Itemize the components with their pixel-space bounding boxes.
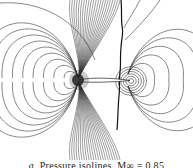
caption-label: a.: [29, 160, 37, 168]
caption-param: M∞ = 0.85: [117, 160, 164, 168]
pressure-isoline-figure: [0, 0, 193, 168]
figure-caption: a. Pressure isolines, M∞ = 0.85: [0, 160, 193, 168]
contour-plot: [0, 0, 193, 168]
caption-text: Pressure isolines,: [40, 160, 115, 168]
